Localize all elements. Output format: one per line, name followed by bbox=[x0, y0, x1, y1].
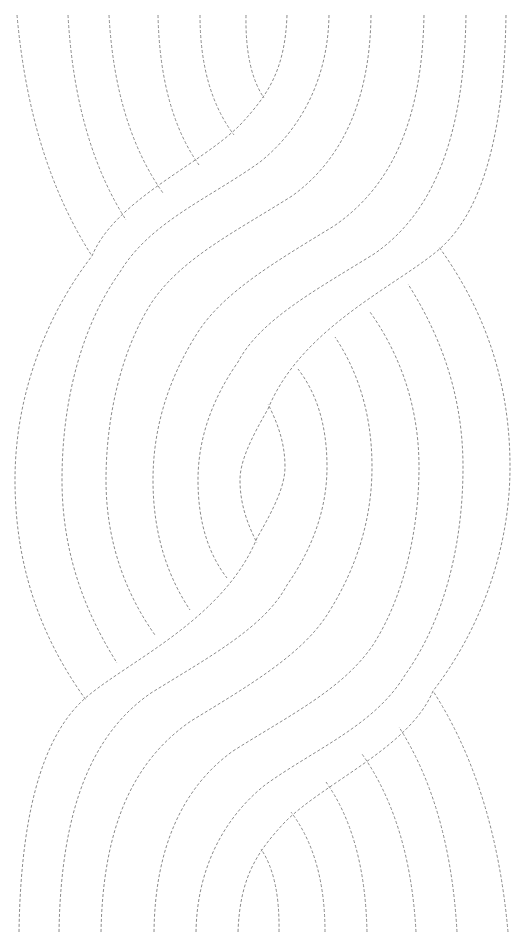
short-arc bbox=[291, 812, 325, 932]
upper-braid-band bbox=[15, 15, 506, 700]
short-arc bbox=[362, 754, 416, 932]
s-curve-line bbox=[153, 15, 424, 610]
lower-braid-band bbox=[19, 247, 510, 932]
s-curve-line bbox=[59, 369, 327, 932]
s-curve-line bbox=[106, 15, 371, 635]
s-curve-line bbox=[15, 15, 287, 700]
s-curve-line bbox=[198, 15, 466, 578]
short-arc bbox=[200, 15, 234, 135]
s-curve-line bbox=[240, 15, 506, 543]
s-curve-line bbox=[238, 247, 510, 932]
short-arc bbox=[246, 15, 264, 98]
short-arcs-group bbox=[261, 691, 508, 932]
short-arc bbox=[109, 15, 163, 193]
s-curve-line bbox=[154, 312, 419, 932]
short-arc bbox=[17, 15, 92, 256]
short-arc bbox=[261, 849, 279, 932]
s-curve-line bbox=[19, 404, 285, 932]
s-lines-group bbox=[15, 15, 506, 700]
short-arc bbox=[433, 691, 508, 932]
s-curve-line bbox=[62, 15, 329, 663]
s-lines-group bbox=[19, 247, 510, 932]
short-arc bbox=[399, 727, 457, 932]
tracing-pattern bbox=[0, 0, 525, 947]
s-curve-line bbox=[196, 284, 463, 932]
short-arcs-group bbox=[17, 15, 264, 256]
s-curve-line bbox=[101, 337, 372, 932]
short-arc bbox=[68, 15, 126, 220]
short-arc bbox=[326, 782, 367, 932]
short-arc bbox=[158, 15, 199, 165]
